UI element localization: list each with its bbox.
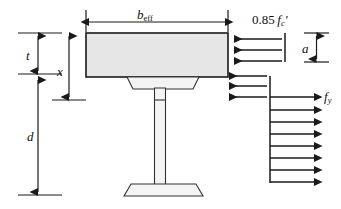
dimension-b-eff xyxy=(86,10,228,32)
concrete-slab xyxy=(86,33,228,77)
label-concrete-stress: 0.85 fc′ xyxy=(252,13,288,28)
compression-stress-block xyxy=(234,33,285,62)
label-a: a xyxy=(302,42,309,55)
label-t: t xyxy=(26,49,30,62)
beam-bottom-flange xyxy=(124,184,203,196)
label-concrete-stress-coefficient: 0.85 xyxy=(252,12,275,27)
concrete-slab-outline xyxy=(86,33,228,77)
diagram-canvas xyxy=(0,0,341,209)
label-f-y: fy xyxy=(324,90,331,105)
label-x: x xyxy=(57,65,63,78)
label-f-y-subscript: y xyxy=(328,95,332,105)
label-d: d xyxy=(27,130,34,143)
label-b-eff: beff xyxy=(137,8,153,23)
dimension-t xyxy=(18,33,62,74)
label-concrete-stress-prime: ′ xyxy=(285,12,288,27)
beam-top-flange xyxy=(127,77,199,89)
yield-stress-block xyxy=(229,76,314,183)
composite-beam-stress-diagram: beff t x d a fy 0.85 fc′ xyxy=(0,0,341,209)
dimension-d xyxy=(18,80,62,195)
beam-web xyxy=(155,88,166,185)
steel-i-beam xyxy=(124,77,203,196)
label-b-eff-subscript: eff xyxy=(144,13,153,23)
